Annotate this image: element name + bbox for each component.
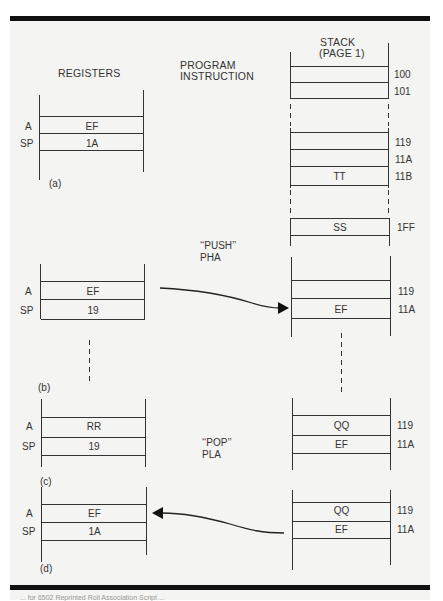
push-arrow [160,288,289,314]
pop-arrow [152,507,284,533]
figure-caption: ... for 6502 Reprinted Roll Association … [20,594,420,601]
